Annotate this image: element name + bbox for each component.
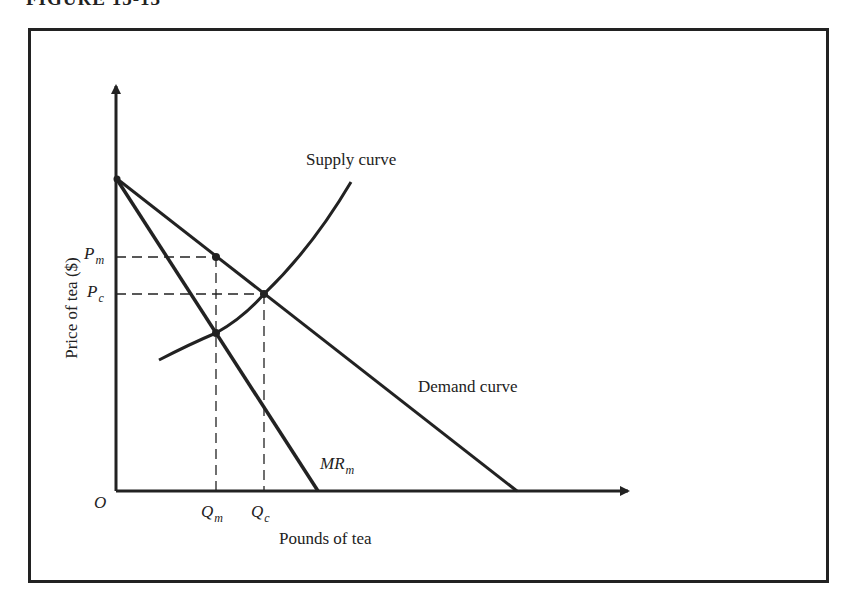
x-axis-label: Pounds of tea	[279, 529, 372, 549]
origin-label: O	[94, 493, 106, 513]
economics-diagram	[0, 0, 855, 612]
monopoly-point	[212, 253, 220, 261]
qm-label-sub: m	[214, 511, 223, 525]
equilibrium-point	[260, 290, 268, 298]
y-axis-label: Price of tea ($)	[62, 257, 82, 358]
intercept-point	[114, 176, 121, 183]
demand-curve-label: Demand curve	[418, 377, 518, 397]
mr-supply-point	[212, 329, 220, 337]
pm-label-sub: m	[95, 253, 104, 267]
qc-label-sub: c	[264, 511, 269, 525]
pc-label-sub: c	[98, 291, 103, 305]
demand-curve	[116, 178, 517, 491]
qc-label-main: Q	[251, 502, 263, 521]
supply-curve-label: Supply curve	[306, 150, 396, 170]
pc-label-main: P	[87, 282, 97, 301]
mr-label: MRm	[320, 454, 354, 474]
qm-label: Qm	[201, 502, 223, 522]
pm-label: Pm	[84, 244, 104, 264]
qc-label: Qc	[251, 502, 270, 522]
mr-label-main: MR	[320, 454, 345, 473]
pm-label-main: P	[84, 244, 94, 263]
qm-label-main: Q	[201, 502, 213, 521]
mr-label-sub: m	[346, 463, 355, 477]
supply-curve	[159, 182, 351, 360]
pc-label: Pc	[87, 282, 104, 302]
